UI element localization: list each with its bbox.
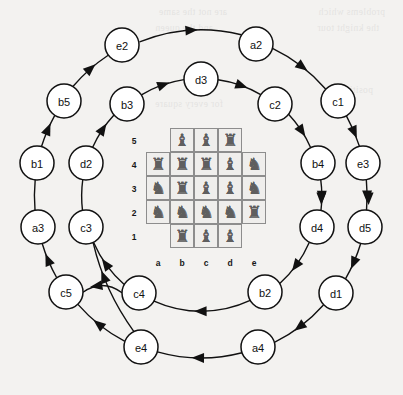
graph-node-c1[interactable]: c1: [321, 84, 355, 118]
edge-arrowhead: [294, 319, 307, 330]
edge-arrowhead: [292, 258, 303, 271]
knight-piece-icon: ♞: [198, 204, 213, 221]
edge-arrowhead: [95, 124, 106, 137]
node-label: a3: [32, 222, 44, 234]
edge-arrowhead: [41, 123, 50, 136]
file-label-a: a: [146, 258, 170, 268]
node-label: e3: [357, 158, 369, 170]
node-label: c4: [133, 288, 145, 300]
edge-arrowhead: [156, 82, 169, 91]
board-cell-b4[interactable]: ♜: [170, 152, 194, 176]
graph-node-c5[interactable]: c5: [49, 275, 83, 309]
graph-node-a2[interactable]: a2: [239, 27, 273, 61]
rank-label-3: 3: [128, 184, 140, 194]
graph-node-a3[interactable]: a3: [21, 210, 55, 244]
board-cell-a2[interactable]: ♞: [146, 200, 170, 224]
node-label: b4: [312, 158, 324, 170]
board-cell-e4[interactable]: ♞: [242, 152, 266, 176]
rook-piece-icon: ♜: [150, 156, 165, 173]
edge-arrowhead: [295, 59, 308, 70]
graph-node-b2[interactable]: b2: [248, 275, 282, 309]
graph-node-d1[interactable]: d1: [319, 276, 353, 310]
node-label: c2: [269, 99, 281, 111]
rook-piece-icon: ♜: [174, 180, 189, 197]
rook-piece-icon: ♜: [174, 228, 189, 245]
edge-arrowhead: [294, 124, 305, 137]
board-cell-c5[interactable]: ♝: [194, 128, 218, 152]
edge-arrowhead: [192, 353, 204, 363]
edge-c3-to-d2: [82, 180, 83, 211]
bishop-piece-icon: ♝: [198, 132, 213, 149]
node-label: c1: [332, 96, 344, 108]
graph-node-b3[interactable]: b3: [110, 87, 144, 121]
node-label: d4: [311, 222, 323, 234]
rank-label-1: 1: [128, 232, 140, 242]
file-label-d: d: [218, 258, 242, 268]
edge-arrowhead: [93, 320, 106, 332]
graph-node-e2[interactable]: e2: [105, 28, 139, 62]
graph-node-d3[interactable]: d3: [184, 62, 218, 96]
edge-arrowhead: [102, 259, 113, 272]
bishop-piece-icon: ♝: [198, 228, 213, 245]
graph-node-b5[interactable]: b5: [47, 84, 81, 118]
graph-node-d4[interactable]: d4: [300, 210, 334, 244]
node-label: e2: [116, 40, 128, 52]
file-label-b: b: [170, 258, 194, 268]
edge-arrowhead: [90, 280, 103, 290]
node-label: a2: [250, 39, 262, 51]
board-cell-d4[interactable]: ♝: [218, 152, 242, 176]
graph-node-c3[interactable]: c3: [69, 210, 103, 244]
node-label: b3: [121, 99, 133, 111]
board-cell-b5[interactable]: ♝: [170, 128, 194, 152]
graph-node-c2[interactable]: c2: [258, 87, 292, 121]
node-label: b2: [259, 287, 271, 299]
graph-node-e3[interactable]: e3: [346, 146, 380, 180]
bishop-piece-icon: ♝: [222, 156, 237, 173]
board-cell-d2[interactable]: ♞: [218, 200, 242, 224]
board-cell-a4[interactable]: ♜: [146, 152, 170, 176]
board-cell-c4[interactable]: ♜: [194, 152, 218, 176]
board-cell-d5[interactable]: ♜: [218, 128, 242, 152]
node-label: b1: [31, 158, 43, 170]
graph-node-a4[interactable]: a4: [241, 330, 275, 364]
node-label: d5: [359, 222, 371, 234]
board-cell-c3[interactable]: ♝: [194, 176, 218, 200]
board-cell-b2[interactable]: ♞: [170, 200, 194, 224]
board-cell-c2[interactable]: ♞: [194, 200, 218, 224]
graph-node-c4[interactable]: c4: [122, 276, 156, 310]
node-label: d3: [195, 74, 207, 86]
rook-piece-icon: ♜: [174, 156, 189, 173]
knight-piece-icon: ♞: [150, 180, 165, 197]
graph-node-e4[interactable]: e4: [124, 330, 158, 364]
graph-node-d2[interactable]: d2: [69, 146, 103, 180]
board-cell-b1[interactable]: ♜: [170, 224, 194, 248]
edge-a3-to-b1: [34, 180, 35, 210]
board-cell-a3[interactable]: ♞: [146, 176, 170, 200]
node-label: b5: [58, 96, 70, 108]
graph-node-b4[interactable]: b4: [301, 146, 335, 180]
knight-piece-icon: ♞: [174, 204, 189, 221]
knight-piece-icon: ♞: [246, 156, 261, 173]
graph-node-d5[interactable]: d5: [348, 210, 382, 244]
node-label: e4: [135, 342, 147, 354]
edge-arrowhead: [316, 193, 326, 205]
edge-arrowhead: [101, 271, 110, 284]
board-cell-d1[interactable]: ♝: [218, 224, 242, 248]
knight-piece-icon: ♞: [246, 180, 261, 197]
node-label: c3: [80, 222, 92, 234]
edge-arrowhead: [364, 192, 374, 204]
knight-piece-icon: ♞: [222, 204, 237, 221]
file-label-e: e: [242, 258, 266, 268]
board-cell-c1[interactable]: ♝: [194, 224, 218, 248]
rank-label-5: 5: [128, 136, 140, 146]
board-cell-e2[interactable]: ♜: [242, 200, 266, 224]
board-cell-b3[interactable]: ♜: [170, 176, 194, 200]
edge-arrowhead: [351, 256, 360, 269]
edge-arrowhead: [194, 306, 206, 316]
graph-node-b1[interactable]: b1: [20, 146, 54, 180]
board-cell-e3[interactable]: ♞: [242, 176, 266, 200]
chess-board: ♝♝♜♜♜♜♝♞♞♜♝♝♞♞♞♞♞♜♜♝♝: [146, 128, 266, 248]
rook-piece-icon: ♜: [246, 204, 261, 221]
board-cell-d3[interactable]: ♝: [218, 176, 242, 200]
edge-arrowhead: [234, 79, 247, 88]
